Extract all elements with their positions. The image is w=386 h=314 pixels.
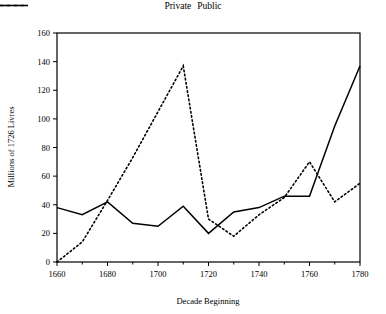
y-tick-label: 40 (42, 200, 51, 210)
x-tick-label: 1760 (301, 269, 318, 279)
chart-svg: 020406080100120140160 166016801700172017… (0, 0, 386, 314)
x-tick-label: 1680 (99, 269, 116, 279)
y-tick-label: 100 (37, 114, 50, 124)
x-tick-label: 1660 (49, 269, 66, 279)
x-axis-title: Decade Beginning (176, 296, 240, 306)
chart-container: Private Public 020406080100120140160 166… (0, 0, 386, 314)
y-axis-ticks: 020406080100120140160 (37, 28, 57, 267)
y-tick-label: 20 (42, 228, 51, 238)
x-tick-label: 1720 (200, 269, 217, 279)
y-axis-title: Millions of 1726 Livres (6, 107, 16, 188)
x-tick-label: 1740 (251, 269, 268, 279)
y-tick-label: 0 (46, 257, 50, 267)
x-axis-ticks: 1660168017001720174017601780 (49, 262, 369, 279)
data-series-layer (57, 66, 360, 262)
x-tick-label: 1780 (352, 269, 369, 279)
y-tick-label: 80 (42, 143, 51, 153)
y-tick-label: 160 (37, 28, 50, 38)
plot-frame (57, 33, 360, 262)
y-tick-label: 60 (42, 171, 51, 181)
y-tick-label: 140 (37, 57, 50, 67)
x-tick-label: 1700 (150, 269, 167, 279)
y-tick-label: 120 (37, 85, 50, 95)
